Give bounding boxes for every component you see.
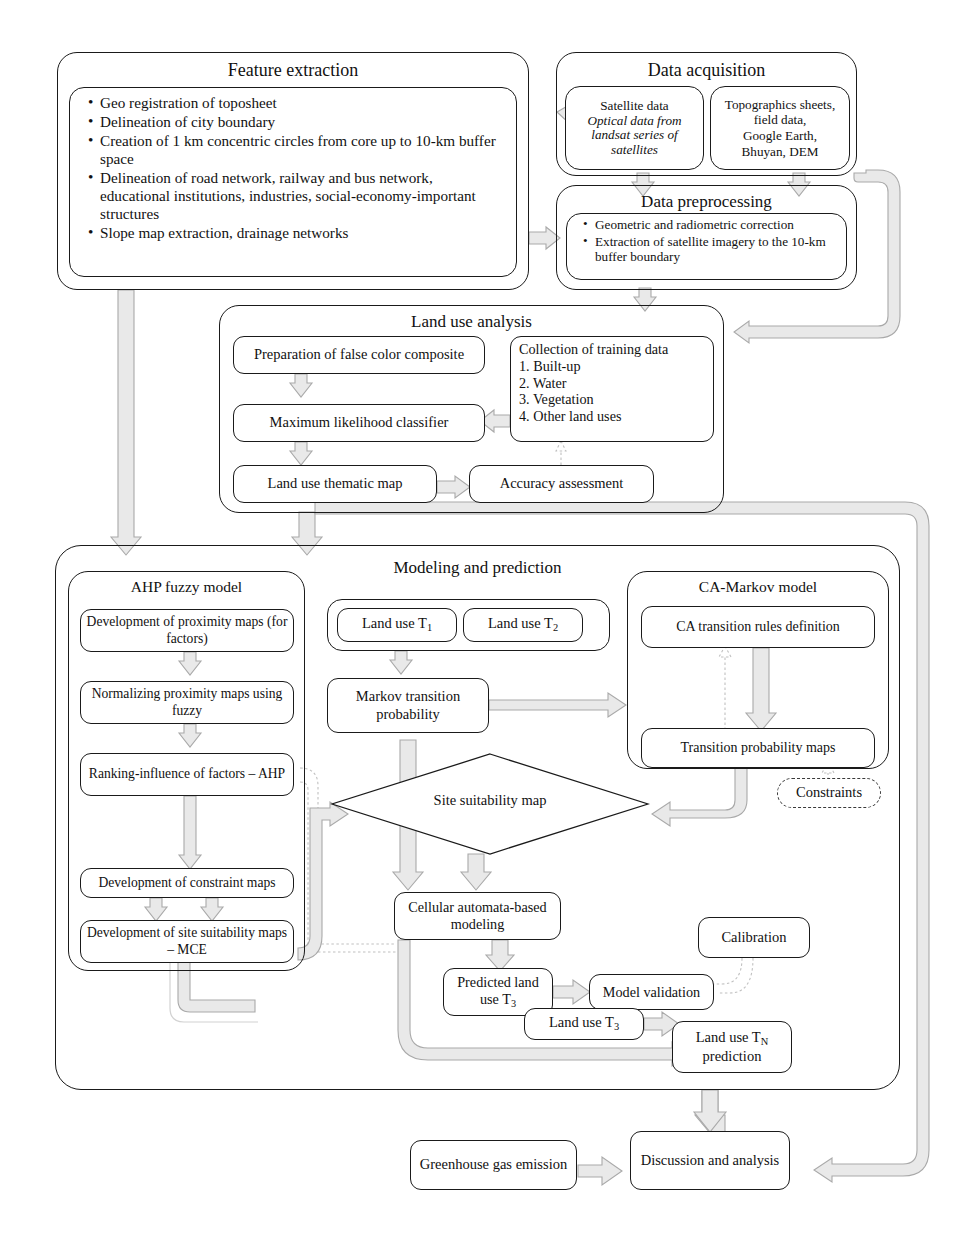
arrow-prediction-to-discussion-head xyxy=(694,1090,726,1132)
prediction-line-2: prediction xyxy=(703,1048,762,1065)
land-use-t2-sub: 2 xyxy=(553,623,558,634)
ahp-step-label: Development of site suitability maps – M… xyxy=(84,925,290,957)
satellite-data-label: Satellite data xyxy=(600,98,668,114)
ahp-step-label: Development of proximity maps (for facto… xyxy=(84,614,290,646)
land-use-analysis-title: Land use analysis xyxy=(220,312,723,332)
list-item: Extraction of satellite imagery to the 1… xyxy=(585,234,838,265)
feature-extraction-title: Feature extraction xyxy=(58,60,528,81)
ahp-step-label: Development of constraint maps xyxy=(98,875,275,891)
arrow-prediction-to-discussion xyxy=(695,1090,725,1133)
predicted-sub: 3 xyxy=(511,998,516,1009)
land-use-t1-text: Land use T xyxy=(362,615,427,631)
prediction-text: Land use T xyxy=(696,1029,761,1045)
list-item: 3. Vegetation xyxy=(519,391,668,408)
list-item: Slope map extraction, drainage networks xyxy=(90,224,506,242)
training-items: 1. Built-up 2. Water 3. Vegetation 4. Ot… xyxy=(519,358,668,425)
transition-probability-maps-box: Transition probability maps xyxy=(641,728,875,768)
ahp-step-constraint-maps: Development of constraint maps xyxy=(80,868,294,898)
list-item: Geometric and radiometric correction xyxy=(585,217,838,233)
ancillary-line-2: field data, xyxy=(754,112,807,128)
flowchart-canvas: .aw{fill:#e9e9e9;stroke:#a9a9a9;stroke-w… xyxy=(0,0,955,1234)
data-preprocessing-title: Data preprocessing xyxy=(557,192,856,212)
site-suitability-label: Site suitability map xyxy=(330,792,650,809)
calibration-label: Calibration xyxy=(721,929,786,946)
land-use-t1-label: Land use T1 xyxy=(362,615,432,635)
prediction-sub: N xyxy=(761,1036,769,1047)
ahp-step-site-suitability-mce: Development of site suitability maps – M… xyxy=(80,920,294,963)
validation-label: Model validation xyxy=(603,984,700,1001)
list-item: Delineation of city boundary xyxy=(90,113,506,131)
cellular-automata-box: Cellular automata-based modeling xyxy=(394,892,561,940)
site-suitability-diamond: Site suitability map xyxy=(330,752,650,856)
ca-markov-title: CA-Markov model xyxy=(628,578,888,596)
predicted-label: Predicted land use T3 xyxy=(447,974,549,1010)
markov-label: Markov transition probability xyxy=(332,688,484,722)
data-preprocessing-bullets: Geometric and radiometric correction Ext… xyxy=(569,217,844,266)
accuracy-assessment-box: Accuracy assessment xyxy=(469,465,654,503)
ahp-step-ranking: Ranking-influence of factors – AHP xyxy=(80,753,294,796)
land-use-t1-box: Land use T1 xyxy=(337,608,457,642)
ahp-step-proximity-maps: Development of proximity maps (for facto… xyxy=(80,609,294,652)
ahp-title: AHP fuzzy model xyxy=(69,578,304,596)
land-use-t3-label: Land use T3 xyxy=(549,1014,619,1034)
ahp-step-label: Normalizing proximity maps using fuzzy xyxy=(84,686,290,718)
land-use-tn-prediction-box: Land use TN prediction xyxy=(672,1021,792,1073)
greenhouse-label: Greenhouse gas emission xyxy=(420,1156,567,1173)
training-data-content: Collection of training data 1. Built-up … xyxy=(519,341,668,425)
data-acquisition-title: Data acquisition xyxy=(557,60,856,81)
satellite-data-detail: Optical data from landsat series of sate… xyxy=(568,114,701,158)
land-use-t2-label: Land use T2 xyxy=(488,615,558,635)
ahp-step-normalizing: Normalizing proximity maps using fuzzy xyxy=(80,681,294,724)
list-item: Creation of 1 km concentric circles from… xyxy=(90,132,506,168)
maximum-likelihood-box: Maximum likelihood classifier xyxy=(233,404,485,442)
ancillary-line-3: Google Earth, xyxy=(743,128,817,144)
land-use-t3-text: Land use T xyxy=(549,1014,614,1030)
accuracy-label: Accuracy assessment xyxy=(500,475,624,492)
list-item: Delineation of road network, railway and… xyxy=(90,169,506,223)
land-use-thematic-map-box: Land use thematic map xyxy=(233,465,437,503)
prediction-line-1: Land use TN xyxy=(696,1029,769,1049)
model-validation-box: Model validation xyxy=(589,974,714,1010)
predicted-text: Predicted land use T xyxy=(457,974,539,1007)
thematic-map-label: Land use thematic map xyxy=(268,475,403,492)
land-use-t3-sub: 3 xyxy=(614,1022,619,1033)
land-use-t2-box: Land use T2 xyxy=(463,608,583,642)
satellite-data-box: Satellite data Optical data from landsat… xyxy=(565,86,704,170)
greenhouse-gas-box: Greenhouse gas emission xyxy=(410,1140,577,1190)
fcc-label: Preparation of false color composite xyxy=(254,346,464,363)
ca-transition-rules-box: CA transition rules definition xyxy=(641,606,875,648)
land-use-t2-text: Land use T xyxy=(488,615,553,631)
prob-maps-label: Transition probability maps xyxy=(680,740,835,757)
arrow-greenhouse-to-discussion xyxy=(578,1157,622,1185)
training-header: Collection of training data xyxy=(519,341,668,358)
feature-extraction-list: Geo registration of toposheet Delineatio… xyxy=(69,87,517,277)
discussion-label: Discussion and analysis xyxy=(641,1152,780,1169)
false-color-composite-box: Preparation of false color composite xyxy=(233,336,485,374)
list-item: 4. Other land uses xyxy=(519,408,668,425)
list-item: Geo registration of toposheet xyxy=(90,94,506,112)
data-preprocessing-list: Geometric and radiometric correction Ext… xyxy=(566,213,847,280)
constraints-box: Constraints xyxy=(777,778,881,808)
classifier-label: Maximum likelihood classifier xyxy=(270,414,449,431)
discussion-analysis-box: Discussion and analysis xyxy=(630,1131,790,1190)
list-item: 1. Built-up xyxy=(519,358,668,375)
ancillary-data-box: Topographics sheets, field data, Google … xyxy=(710,86,850,170)
ancillary-line-1: Topographics sheets, xyxy=(725,97,835,113)
constraints-label: Constraints xyxy=(796,784,862,801)
ca-rules-label: CA transition rules definition xyxy=(676,619,840,636)
markov-transition-box: Markov transition probability xyxy=(327,678,489,733)
ahp-step-label: Ranking-influence of factors – AHP xyxy=(89,766,285,782)
calibration-box: Calibration xyxy=(698,917,810,958)
ancillary-line-4: Bhuyan, DEM xyxy=(742,144,819,160)
ca-modeling-label: Cellular automata-based modeling xyxy=(398,899,557,933)
feature-extraction-bullets: Geo registration of toposheet Delineatio… xyxy=(74,94,512,243)
list-item: 2. Water xyxy=(519,375,668,392)
land-use-t1-sub: 1 xyxy=(427,623,432,634)
land-use-t3-box: Land use T3 xyxy=(524,1008,644,1040)
training-data-box: Collection of training data 1. Built-up … xyxy=(510,336,714,442)
bus-feature-down-to-ahp xyxy=(111,290,141,555)
